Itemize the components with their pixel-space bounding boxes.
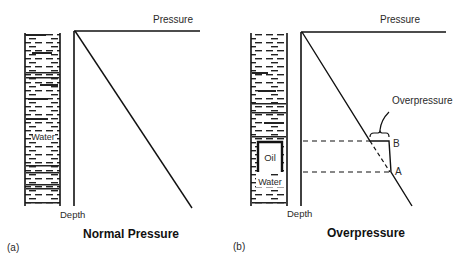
lithology-column-b: Oil Water <box>251 33 287 206</box>
pressure-gradient-line-a <box>75 31 192 208</box>
panel-a: Water Pressure Depth Normal Pressure (a) <box>7 14 200 253</box>
overpressure-bracket <box>370 130 389 137</box>
lithology-column-a: Water <box>25 33 60 206</box>
panel-b: Oil Water Overpressure B A Pressure Dept… <box>233 14 453 252</box>
point-b-label: B <box>393 138 400 149</box>
oil-trap: Oil <box>258 142 282 172</box>
depth-axis-label-b: Depth <box>287 208 312 219</box>
panel-title-a: Normal Pressure <box>83 227 179 241</box>
pressure-profile-line-b <box>302 32 412 206</box>
point-a-label: A <box>395 166 402 177</box>
panel-title-b: Overpressure <box>327 226 405 240</box>
overpressure-leader <box>380 112 389 130</box>
water-label-b: Water <box>258 177 282 187</box>
overpressure-annotation: Overpressure <box>392 95 453 106</box>
pressure-axis-label-b: Pressure <box>380 14 420 25</box>
depth-axis-label-a: Depth <box>60 209 85 220</box>
pressure-axis-label-a: Pressure <box>153 14 193 25</box>
oil-label: Oil <box>264 152 276 163</box>
panel-label-a: (a) <box>7 242 19 253</box>
hydrostatic-dashed-line-b <box>370 141 390 172</box>
pressure-depth-diagram: Water Pressure Depth Normal Pressure (a) <box>0 0 462 267</box>
water-label-a: Water <box>31 132 55 142</box>
panel-label-b: (b) <box>233 241 245 252</box>
